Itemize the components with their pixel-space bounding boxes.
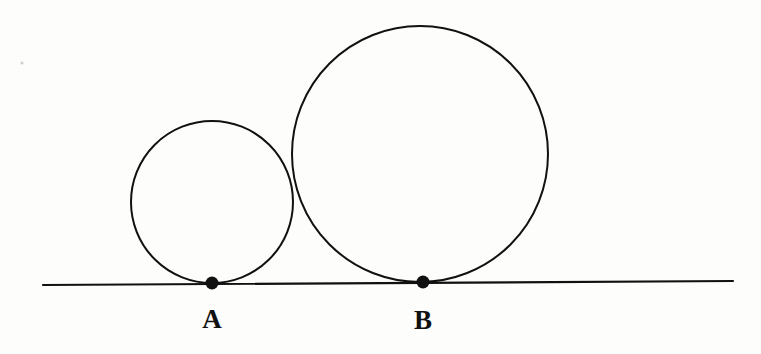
point-b-label: B [414,307,432,334]
geometry-figure: A B [0,0,761,354]
figure-background [0,0,761,354]
point-a-label: A [202,306,222,333]
scan-artifact-speck [20,61,23,64]
point-b-dot [417,276,430,289]
point-a-dot [206,277,219,290]
diagram-canvas [0,0,761,354]
